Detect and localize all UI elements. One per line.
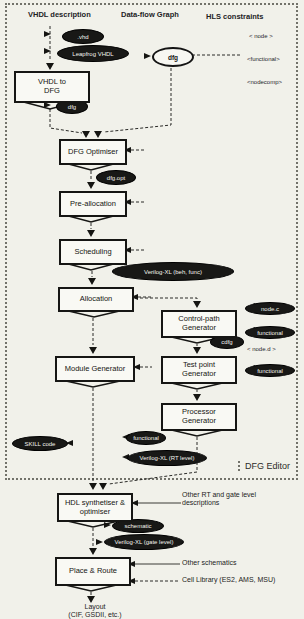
constraint-functional-pill-1: functional — [245, 326, 295, 339]
box-scheduling-label: Scheduling — [74, 248, 111, 257]
box-test-point-generator-line2: Generator — [182, 370, 216, 379]
header-data-flow-graph: Data-flow Graph — [121, 10, 179, 19]
box-processor-generator: Processor Generator — [161, 403, 237, 431]
box-allocation: Allocation — [58, 287, 134, 312]
box-processor-generator-line2: Generator — [182, 417, 216, 426]
box-vhdl-to-dfg: VHDL to DFG — [14, 71, 90, 103]
constraint-nodecomp: <nodecomp> — [247, 79, 282, 85]
constraint-node: < node > — [249, 33, 273, 39]
constraint-functional-pill-2: functional — [245, 364, 295, 377]
file-vhd-pill: .vhd — [62, 29, 104, 44]
dfg-editor-label: DFG Editor — [238, 461, 290, 471]
box-scheduling: Scheduling — [59, 239, 127, 265]
box-control-path-generator: Control-path Generator — [161, 310, 237, 338]
box-dfg-optimiser-label: DFG Optimiser — [68, 148, 118, 157]
header-vhdl-description: VHDL description — [28, 10, 91, 19]
box-hdl-synthetiser-line2: optimiser — [80, 508, 110, 517]
note-other-rt-gate-level: Other RT and gate level descriptions — [182, 491, 270, 508]
box-test-point-generator: Test point Generator — [161, 356, 237, 384]
box-vhdl-to-dfg-line2: DFG — [44, 87, 60, 96]
box-pre-allocation: Pre-allocation — [59, 191, 127, 217]
tool-leapfrog-vhdl-pill: Leapfrog VHDL — [57, 45, 129, 62]
box-place-route: Place & Route — [55, 557, 131, 586]
box-dfg-optimiser: DFG Optimiser — [59, 139, 127, 165]
file-functional-pill: functional — [126, 431, 166, 445]
note-other-schematics: Other schematics — [182, 559, 236, 567]
note-cell-library: Cell Library (ES2, AMS, MSU) — [182, 576, 275, 584]
file-dfg-opt-pill: dfg.opt — [96, 170, 136, 185]
constraint-functional-top: <functional> — [247, 56, 280, 62]
header-hls-constraints: HLS constraints — [206, 12, 264, 21]
constraint-node-d: < node.d > — [247, 346, 276, 352]
dataflow-graph-dfg-node: dfg — [152, 47, 194, 67]
box-module-generator: Module Generator — [55, 356, 135, 382]
file-skill-code-pill: SKILL code — [12, 436, 68, 451]
tool-verilog-xl-gate-pill: Verilog-XL (gate level) — [104, 534, 184, 550]
tool-verilog-xl-rt-pill: Verilog-XL (RT level) — [127, 450, 207, 466]
box-allocation-label: Allocation — [80, 295, 113, 304]
box-control-path-generator-line2: Generator — [182, 324, 216, 333]
box-pre-allocation-label: Pre-allocation — [70, 200, 116, 209]
box-hdl-synthetiser: HDL synthetiser & optimiser — [57, 493, 133, 522]
output-layout-formats: (CIF, GSDII, etc.) — [68, 611, 121, 619]
tool-verilog-xl-beh-func-pill: Verilog-XL (beh, func) — [112, 262, 234, 281]
box-module-generator-label: Module Generator — [65, 365, 125, 374]
dfg-editor-flow-diagram: DFG Editor VHDL description Data-flow Gr… — [0, 0, 304, 619]
box-place-route-label: Place & Route — [69, 567, 117, 576]
constraint-node-c-pill: node.c — [245, 302, 295, 315]
